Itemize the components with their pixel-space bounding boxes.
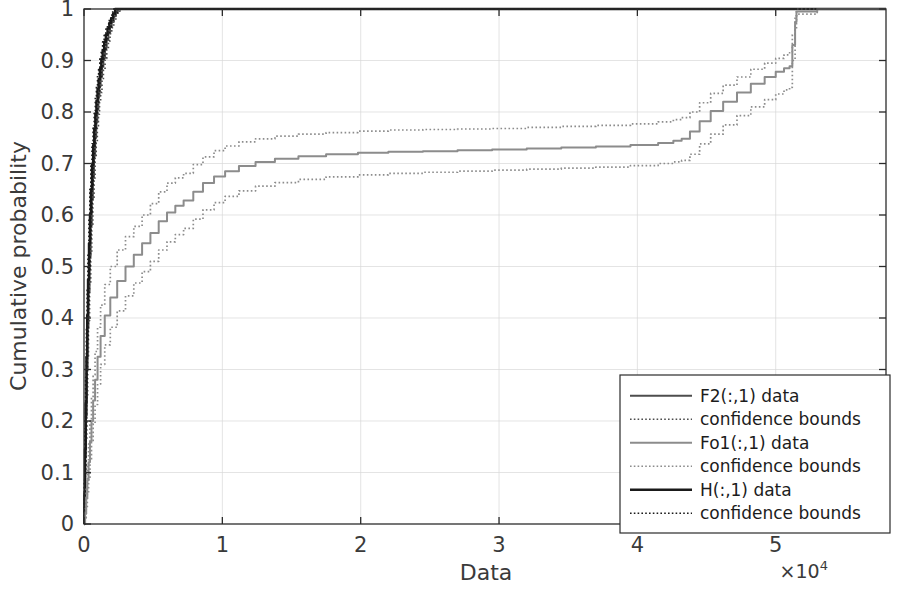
x-axis-exponent: ×104	[780, 558, 828, 582]
x-tick-label: 1	[216, 533, 229, 557]
legend-entry-label: confidence bounds	[700, 503, 861, 523]
y-axis-label: Cumulative probability	[6, 141, 31, 391]
legend-entry-label: Fo1(:,1) data	[700, 433, 809, 453]
y-tick-label: 0.7	[41, 152, 74, 176]
legend-entry-label: confidence bounds	[700, 409, 861, 429]
legend-entry-label: F2(:,1) data	[700, 386, 800, 406]
y-tick-label: 0	[61, 512, 74, 536]
chart-figure: 01234500.10.20.30.40.50.60.70.80.91 Cumu…	[0, 0, 898, 591]
y-tick-label: 0.1	[41, 461, 74, 485]
y-tick-label: 0.5	[41, 255, 74, 279]
y-tick-label: 1	[61, 0, 74, 21]
cdf-plot: 01234500.10.20.30.40.50.60.70.80.91 Cumu…	[0, 0, 898, 591]
x-axis-label: Data	[460, 560, 513, 585]
x-tick-label: 0	[77, 533, 90, 557]
legend-entry-label: H(:,1) data	[700, 480, 792, 500]
y-tick-label: 0.4	[41, 306, 74, 330]
x-tick-label: 3	[492, 533, 505, 557]
y-tick-label: 0.8	[41, 100, 74, 124]
x-axis-exponent-base: ×10	[780, 560, 820, 582]
y-tick-label: 0.3	[41, 358, 74, 382]
x-axis-exponent-power: 4	[820, 558, 828, 573]
legend[interactable]: F2(:,1) dataconfidence boundsFo1(:,1) da…	[620, 375, 890, 533]
y-tick-label: 0.2	[41, 409, 74, 433]
y-tick-label: 0.9	[41, 49, 74, 73]
x-tick-label: 4	[631, 533, 644, 557]
x-tick-label: 5	[769, 533, 782, 557]
legend-entry-label: confidence bounds	[700, 456, 861, 476]
x-tick-label: 2	[354, 533, 367, 557]
y-tick-label: 0.6	[41, 203, 74, 227]
